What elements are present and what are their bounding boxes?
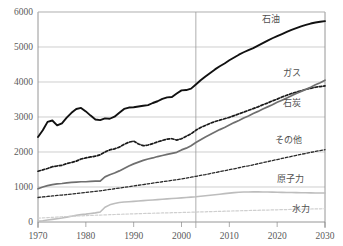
y-axis-label: 3000 [14,112,33,122]
series-label-others: その他 [275,134,302,145]
x-axis-label: 2010 [220,231,239,241]
y-axis-label: 2000 [14,147,33,157]
series-label-oil: 石油 [262,13,280,24]
series-label-nuclear: 原子力 [277,173,304,184]
series-label-hydro: 水力 [292,203,310,214]
chart-svg: 0100020003000400050006000197019801990200… [0,0,343,246]
series-line-hydro [38,209,325,218]
x-axis-label: 1970 [29,231,48,241]
series-label-coal: 石炭 [283,98,301,108]
energy-outlook-chart: 0100020003000400050006000197019801990200… [0,0,343,246]
y-axis-label: 4000 [14,77,33,87]
y-axis-label: 5000 [14,42,33,52]
x-axis-label: 1990 [124,231,143,241]
y-axis-label: 1000 [14,182,33,192]
x-axis-label: 1980 [76,231,95,241]
x-axis-label: 2030 [316,231,335,241]
x-axis-label: 2020 [268,231,287,241]
y-axis-label: 6000 [14,7,33,17]
series-label-gas: ガス [283,68,301,78]
series-line-nuclear [38,192,325,221]
y-axis-label: 0 [28,217,33,227]
series-line-oil [38,21,325,137]
x-axis-label: 2000 [172,231,191,241]
